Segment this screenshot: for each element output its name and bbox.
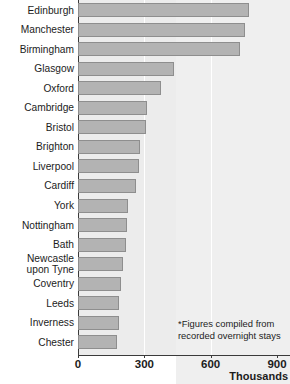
bar <box>78 199 128 213</box>
x-axis-title: Thousands <box>229 370 288 382</box>
bar <box>78 335 117 349</box>
category-label: Liverpool <box>33 161 74 172</box>
bar <box>78 179 136 193</box>
category-label: Glasgow <box>34 63 74 74</box>
x-tick-label: 900 <box>257 358 290 370</box>
category-label: Newcastle upon Tyne <box>27 253 74 275</box>
category-label: Chester <box>38 337 74 348</box>
category-label: Inverness <box>30 317 74 328</box>
category-label: Oxford <box>43 83 74 94</box>
bar <box>78 3 249 17</box>
category-label: York <box>54 200 74 211</box>
bar <box>78 257 123 271</box>
bar <box>78 218 127 232</box>
bar-chart: EdinburghManchesterBirminghamGlasgowOxfo… <box>0 0 290 384</box>
footnote-line-2: recorded overnight stays <box>178 330 281 342</box>
category-label: Nottingham <box>22 220 74 231</box>
bar <box>78 101 147 115</box>
category-label: Cambridge <box>24 102 74 113</box>
category-label: Birmingham <box>20 44 74 55</box>
x-tick-label: 0 <box>58 358 98 370</box>
category-label: Bristol <box>46 122 74 133</box>
category-label: Leeds <box>46 298 74 309</box>
category-label: Cardiff <box>44 180 74 191</box>
bar <box>78 23 245 37</box>
bar <box>78 81 161 95</box>
footnote-line-1: *Figures compiled from <box>178 318 281 330</box>
bar <box>78 159 139 173</box>
bar <box>78 296 119 310</box>
category-label: Coventry <box>33 278 74 289</box>
bar <box>78 140 140 154</box>
chart-footnote: *Figures compiled from recorded overnigh… <box>178 318 281 341</box>
bar <box>78 120 146 134</box>
category-label: Manchester <box>21 24 74 35</box>
category-label: Bath <box>53 239 74 250</box>
bar <box>78 62 174 76</box>
bar <box>78 277 121 291</box>
bar <box>78 238 126 252</box>
bar <box>78 42 240 56</box>
category-label: Edinburgh <box>28 5 74 16</box>
x-tick-label: 300 <box>124 358 164 370</box>
x-axis-line <box>78 355 290 356</box>
bar <box>78 316 119 330</box>
category-label: Brighton <box>36 141 74 152</box>
x-tick-label: 600 <box>191 358 231 370</box>
